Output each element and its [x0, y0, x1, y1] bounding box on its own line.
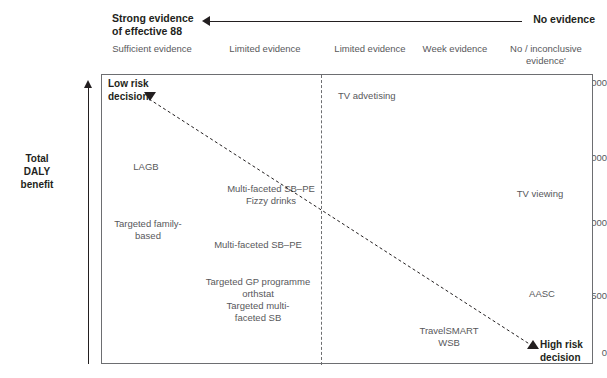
data-label-travelsmart-wsb: TravelSMART WSB — [419, 325, 478, 349]
data-label-targeted-gp-programme-group: Targeted GP programme orthstat Targeted … — [206, 276, 310, 324]
y-axis-line — [88, 88, 89, 364]
y-axis-title: Total DALY benefit — [6, 152, 68, 191]
header-no-evidence-label: No evidence — [525, 14, 595, 25]
low-risk-decision-callout: Low risk decision — [108, 78, 149, 103]
data-label-multi-faceted-sb-pe-fizzy-drinks: Multi-faceted SB–PE Fizzy drinks — [227, 183, 315, 207]
left-arrow-icon — [202, 16, 210, 26]
data-label-targeted-family-based: Targeted family- based — [114, 218, 182, 242]
up-arrow-icon — [84, 80, 92, 88]
data-label-tv-viewing: TV viewing — [517, 188, 563, 200]
data-label-aasc: AASC — [529, 288, 555, 300]
high-risk-decision-callout: High risk decision — [540, 339, 583, 364]
column-header-4: No / inconclusive evidence' — [496, 43, 596, 67]
figure-root: Strong evidence of effective 88 No evide… — [0, 0, 607, 378]
data-label-tv-advetising: TV advetising — [338, 90, 396, 102]
data-label-multi-faceted-sb-pe: Multi-faceted SB–PE — [214, 239, 302, 251]
evidence-axis-line — [208, 21, 522, 22]
data-label-lagb: LAGB — [133, 161, 158, 173]
vertical-dashed-divider — [321, 75, 322, 365]
